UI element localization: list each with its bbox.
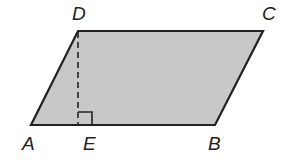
vertex-label-a: A <box>21 133 35 154</box>
parallelogram-abcd <box>31 31 263 125</box>
vertex-label-d: D <box>72 3 86 24</box>
vertex-label-b: B <box>208 133 221 154</box>
parallelogram-diagram: D C A E B <box>0 0 282 166</box>
vertex-label-e: E <box>83 133 96 154</box>
vertex-label-c: C <box>262 3 276 24</box>
